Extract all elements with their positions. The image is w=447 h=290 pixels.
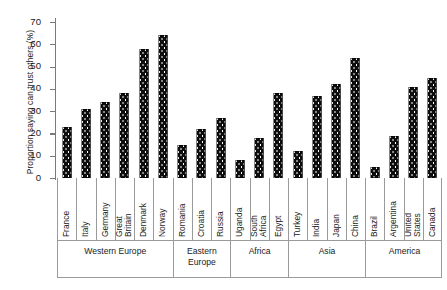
bar-slot [288,22,307,178]
country-label-text: Canada [429,208,438,237]
country-label-cell: Argentina [385,178,404,240]
country-label-cell: Egypt [270,178,289,240]
bar [158,35,167,178]
country-label-text: Uganda [236,208,245,237]
bar-slot [153,22,172,178]
bar [332,84,341,178]
y-axis-tick-label: 30 [11,105,41,117]
region-label-text: America [389,246,421,257]
country-label-text: Argentina [390,201,399,237]
country-label-cell: GreatBritain [116,178,135,240]
bar [178,145,187,178]
bar-slot [307,22,326,178]
bar-slot [423,22,442,178]
bar [216,118,225,178]
bar-slot [96,22,115,178]
bar [312,96,321,178]
region-label-text: Africa [249,246,271,257]
country-label-text: Japan [332,214,341,237]
bar-slot [365,22,384,178]
region-label-text: Eastern Europe [187,246,217,268]
bar-chart-figure: Proportion saying can trust others (%) 0… [0,0,447,290]
bar-slot [384,22,403,178]
y-axis-tick-label: 40 [11,82,41,94]
country-label-cell: Canada [424,178,443,240]
bar [389,136,398,178]
country-label-text: Brazil [370,216,379,237]
bar [409,87,418,178]
country-label-cell: Denmark [135,178,154,240]
region-label-cell: Eastern Europe [174,241,232,278]
y-axis-tick: 0 [50,178,55,179]
country-label-text: States [413,213,422,237]
bar [235,160,244,178]
bar-slot [404,22,423,178]
country-label-text: Romania [178,203,187,237]
country-label-cell: Turkey [289,178,308,240]
region-label-row: Western EuropeEastern EuropeAfricaAsiaAm… [58,241,441,278]
bar [428,78,437,178]
bar-slot [269,22,288,178]
country-label-cell: Norway [154,178,173,240]
y-axis-tick-label: 60 [11,38,41,50]
bar [370,167,379,178]
country-label-text: Croatia [197,210,206,237]
country-label-cell: India [308,178,327,240]
bar-slot [211,22,230,178]
country-label-text: Norway [159,209,168,237]
y-axis-tick: 40 [50,89,55,90]
bar [293,151,302,178]
bar-slot [57,22,76,178]
y-axis-tick: 30 [50,111,55,112]
bar-slot [346,22,365,178]
y-axis-tick: 50 [50,67,55,68]
country-label-cell: Russia [212,178,231,240]
country-label-text: Britain [124,213,133,237]
country-label-cell: France [58,178,77,240]
country-label-text: Africa [259,216,268,237]
bar [197,129,206,178]
region-label-text: Asia [319,246,336,257]
y-axis-line [55,18,56,180]
y-axis-tick: 70 [50,22,55,23]
bar [120,93,129,178]
category-label-table: FranceItalyGermanyGreatBritainDenmarkNor… [57,178,442,278]
bar [351,58,360,178]
y-axis-tick-label: 50 [11,60,41,72]
plot-area: 010203040506070 [57,22,442,178]
bar-slot [192,22,211,178]
y-axis-tick: 60 [50,44,55,45]
region-label-cell: Asia [289,241,366,278]
region-label-cell: America [366,241,443,278]
country-label-cell: Germany [97,178,116,240]
country-label-text: Denmark [139,203,148,237]
country-label-cell: China [347,178,366,240]
country-label-text: Egypt [274,216,283,237]
country-label-cell: UnitedStates [405,178,424,240]
country-label-text: Russia [216,211,225,237]
country-label-text: China [351,215,360,237]
bar [101,102,110,178]
bar-slot [115,22,134,178]
y-axis-tick-label: 20 [11,127,41,139]
region-label-cell: Western Europe [58,241,174,278]
y-axis-tick-label: 0 [11,172,41,184]
bar [81,109,90,178]
region-label-text: Western Europe [84,246,146,257]
bar-slot [76,22,95,178]
bar-series [57,22,442,178]
country-label-cell: Japan [328,178,347,240]
country-label-cell: Uganda [231,178,250,240]
bar [139,49,148,178]
country-label-text: India [313,219,322,237]
bar-slot [230,22,249,178]
y-axis-tick-label: 70 [11,16,41,28]
country-label-text: France [62,211,71,237]
y-axis-tick: 20 [50,133,55,134]
country-label-row: FranceItalyGermanyGreatBritainDenmarkNor… [58,178,441,241]
country-label-text: Italy [82,222,91,237]
region-label-cell: Africa [231,241,289,278]
country-label-cell: Romania [174,178,193,240]
bar-slot [134,22,153,178]
y-axis-tick-label: 10 [11,149,41,161]
